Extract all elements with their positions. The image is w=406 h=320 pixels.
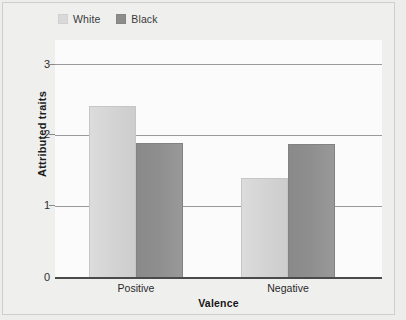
- x-tick-label-positive: Positive: [118, 282, 155, 294]
- x-axis-title: Valence: [55, 297, 382, 309]
- legend-label-black: Black: [131, 14, 157, 25]
- bar-positive-black[interactable]: [136, 143, 183, 278]
- gridline-3: [55, 64, 382, 65]
- y-axis-title: Attributed traits: [36, 64, 48, 204]
- bar-positive-white[interactable]: [89, 106, 136, 278]
- plot-area: [55, 40, 382, 278]
- y-tickmark-3: [49, 64, 55, 65]
- x-axis-line: [55, 277, 382, 279]
- chart-legend: White Black: [58, 14, 158, 25]
- chart-figure: White Black 3 2 1 0 Attributed traits Po…: [0, 0, 406, 320]
- legend-entry-black[interactable]: Black: [116, 14, 157, 25]
- legend-swatch-black-icon: [116, 14, 126, 24]
- x-tick-label-negative: Negative: [267, 282, 308, 294]
- y-tickmark-2: [49, 134, 55, 135]
- y-tickmark-1: [49, 205, 55, 206]
- legend-entry-white[interactable]: White: [58, 14, 100, 25]
- legend-label-white: White: [73, 14, 100, 25]
- bar-negative-white[interactable]: [241, 178, 288, 278]
- bar-negative-black[interactable]: [288, 144, 335, 278]
- legend-swatch-white-icon: [58, 14, 68, 24]
- y-tick-label-0: 0: [11, 271, 55, 283]
